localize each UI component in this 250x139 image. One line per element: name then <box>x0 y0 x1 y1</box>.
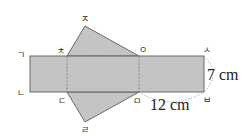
prism-net-diagram: ㄱ ㄴ ㄷ ㄹ ㅁ ㅂ ㅅ ㅇ ㅈ ㅊ 7 cm 12 cm <box>0 0 250 139</box>
vertex-label-g: ㄱ <box>17 50 25 60</box>
width-measurement: 12 cm <box>150 96 190 113</box>
vertex-label-o: ㅇ <box>139 45 147 55</box>
bottom-triangle-face <box>67 92 139 122</box>
vertex-label-j: ㅈ <box>81 14 89 24</box>
vertex-label-n: ㄴ <box>17 88 25 98</box>
vertex-label-d: ㄷ <box>58 96 66 106</box>
vertex-label-ch: ㅊ <box>57 46 65 56</box>
vertex-label-b: ㅂ <box>203 95 211 105</box>
height-measurement: 7 cm <box>207 66 239 83</box>
vertex-label-r: ㄹ <box>81 125 89 135</box>
top-triangle-face <box>67 26 139 56</box>
vertex-label-m: ㅁ <box>133 96 141 106</box>
vertex-label-s: ㅅ <box>203 45 211 55</box>
rectangle-strip <box>30 56 204 92</box>
